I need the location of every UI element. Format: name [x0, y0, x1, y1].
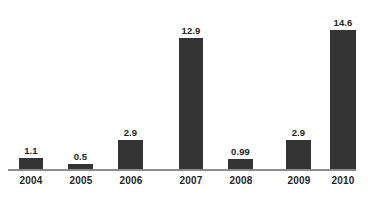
bar-rect — [330, 30, 356, 169]
x-axis-tick-label: 2010 — [318, 175, 368, 186]
bar-rect — [179, 38, 203, 169]
bar-group: 0.5 — [68, 17, 93, 169]
bar-rect — [19, 158, 43, 169]
bar-value-label: 2.9 — [124, 127, 138, 138]
bar-group: 2.9 — [118, 17, 143, 169]
bar-rect — [118, 140, 143, 169]
x-axis-tick-label: 2007 — [166, 175, 216, 186]
bar-group: 1.1 — [19, 17, 43, 169]
x-axis-tick-label: 2006 — [106, 175, 156, 186]
bar-rect — [228, 159, 253, 169]
bar-value-label: 1.1 — [24, 145, 38, 156]
bar-group: 2.9 — [286, 17, 311, 169]
bar-chart: 1.10.52.912.90.992.914.6 200420052006200… — [0, 0, 368, 197]
x-axis-tick-label: 2004 — [6, 175, 56, 186]
bar-value-label: 2.9 — [292, 127, 306, 138]
bar-group: 14.6 — [330, 17, 356, 169]
plot-area: 1.10.52.912.90.992.914.6 200420052006200… — [0, 0, 368, 197]
x-axis-tick-label: 2009 — [274, 175, 324, 186]
bar-group: 12.9 — [179, 17, 203, 169]
x-axis-tick-label: 2008 — [216, 175, 266, 186]
bar-rect — [68, 164, 93, 169]
bar-value-label: 14.6 — [334, 17, 353, 28]
x-axis-line — [8, 169, 356, 171]
bar-group: 0.99 — [228, 17, 253, 169]
bar-value-label: 12.9 — [182, 25, 201, 36]
bar-value-label: 0.99 — [231, 146, 250, 157]
x-axis-tick-label: 2005 — [56, 175, 106, 186]
bar-rect — [286, 140, 311, 169]
bar-value-label: 0.5 — [74, 151, 88, 162]
